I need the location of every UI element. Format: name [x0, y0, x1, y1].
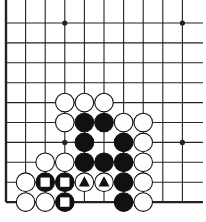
white-stone-body: [36, 193, 55, 212]
white-stone-body: [114, 113, 133, 132]
white-stone-body: [134, 173, 153, 192]
square-mark-icon: [61, 198, 70, 207]
black-stone: [75, 133, 94, 152]
black-stone-body: [75, 133, 94, 152]
white-stone-body: [134, 153, 153, 172]
white-stone: [95, 173, 114, 192]
black-stone: [114, 133, 133, 152]
black-stone-body: [114, 173, 133, 192]
square-mark-icon: [41, 178, 50, 187]
black-stone-body: [114, 133, 133, 152]
star-point: [62, 20, 67, 25]
white-stone: [36, 153, 55, 172]
white-stone: [134, 173, 153, 192]
white-stone-body: [56, 113, 75, 132]
white-stone-body: [75, 93, 94, 112]
white-stone: [95, 93, 114, 112]
black-stone: [114, 153, 133, 172]
white-stone-body: [16, 173, 35, 192]
black-stone: [114, 173, 133, 192]
white-stone: [16, 193, 35, 212]
black-stone-body: [75, 113, 94, 132]
black-stone: [56, 173, 75, 192]
white-stone: [134, 133, 153, 152]
square-mark-icon: [61, 178, 70, 187]
white-stone: [134, 153, 153, 172]
star-point: [180, 20, 185, 25]
black-stone-body: [114, 153, 133, 172]
star-point: [180, 140, 185, 145]
white-stone: [134, 193, 153, 212]
white-stone: [56, 153, 75, 172]
white-stone-body: [95, 93, 114, 112]
black-stone: [36, 173, 55, 192]
go-board: [0, 0, 206, 222]
white-stone: [36, 193, 55, 212]
black-stone: [75, 113, 94, 132]
white-stone-body: [56, 93, 75, 112]
white-stone: [75, 173, 94, 192]
white-stone: [56, 113, 75, 132]
black-stone: [95, 113, 114, 132]
white-stone: [16, 173, 35, 192]
black-stone: [75, 153, 94, 172]
white-stone: [134, 113, 153, 132]
black-stone-body: [95, 113, 114, 132]
black-stone-body: [95, 153, 114, 172]
white-stone-body: [134, 113, 153, 132]
white-stone-body: [134, 193, 153, 212]
white-stone: [114, 113, 133, 132]
black-stone-body: [114, 193, 133, 212]
white-stone: [75, 93, 94, 112]
white-stone-body: [56, 153, 75, 172]
star-point: [62, 140, 67, 145]
black-stone: [114, 193, 133, 212]
white-stone-body: [36, 153, 55, 172]
white-stone-body: [134, 133, 153, 152]
black-stone: [56, 193, 75, 212]
black-stone-body: [75, 153, 94, 172]
black-stone: [95, 153, 114, 172]
white-stone: [56, 93, 75, 112]
white-stone-body: [16, 193, 35, 212]
